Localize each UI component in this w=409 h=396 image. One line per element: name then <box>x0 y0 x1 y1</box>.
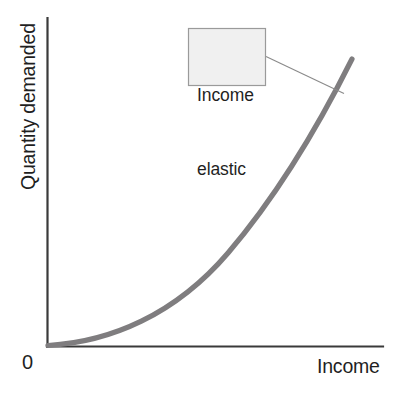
callout-line-1: Income <box>197 83 267 108</box>
x-axis-label: Income <box>317 356 380 376</box>
callout-line-2: elastic <box>197 157 267 182</box>
callout-leader-line <box>266 57 344 94</box>
y-axis-label: Quantity demanded <box>18 0 38 190</box>
engel-curve-figure: Quantity demanded Income 0 Income elasti… <box>0 0 409 396</box>
origin-label: 0 <box>22 352 33 373</box>
callout-label: Income elastic <box>197 33 267 232</box>
